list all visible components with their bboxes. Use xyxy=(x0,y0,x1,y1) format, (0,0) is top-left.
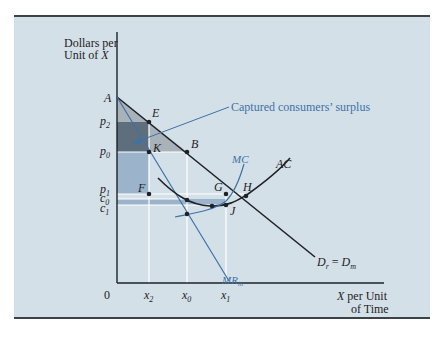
point-label-h: H xyxy=(242,180,253,194)
shade-captured-dark xyxy=(117,122,149,152)
point-label-e: E xyxy=(151,106,160,120)
point-label-f: F xyxy=(137,181,146,195)
shade-strip-c0-c1 xyxy=(117,199,226,205)
x-axis-label-line2: of Time xyxy=(351,302,389,316)
point-label-g: G xyxy=(214,180,223,194)
tick-x1: x1 xyxy=(220,288,230,304)
chart-svg: Dollars per Unit of X X per Unit of Time… xyxy=(0,0,443,343)
demand-label: Dr = Dm xyxy=(316,255,356,271)
x-axis-label-line1: X per Unit xyxy=(336,289,388,303)
tick-p2: p2 xyxy=(99,114,110,130)
point-label-b: B xyxy=(191,137,199,151)
y-axis-label-line2: Unit of X xyxy=(64,48,109,62)
point-label-k: K xyxy=(152,141,162,155)
point-label-a: A xyxy=(103,91,112,105)
captured-surplus-annotation: Captured consumers’ surplus xyxy=(231,100,370,114)
tick-x0: x0 xyxy=(181,288,191,304)
mc-label: MC xyxy=(231,153,249,165)
mr-label: MRm xyxy=(221,274,243,288)
origin-label: 0 xyxy=(104,288,110,302)
tick-x2: x2 xyxy=(143,288,153,304)
point-label-j: J xyxy=(230,204,236,218)
ac-label: AC xyxy=(275,157,292,171)
tick-p0: p0 xyxy=(99,144,110,160)
